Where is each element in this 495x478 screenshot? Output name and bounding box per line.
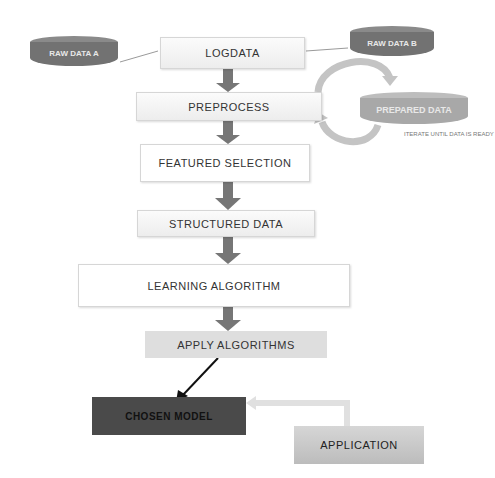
raw-data-a-label: RAW DATA A: [49, 49, 98, 58]
learning-algorithm-label: LEARNING ALGORITHM: [147, 280, 280, 292]
logdata-box: LOGDATA: [160, 37, 305, 69]
apply-algorithms-box: APPLY ALGORITHMS: [145, 331, 327, 358]
prepared-data-label: PREPARED DATA: [376, 105, 452, 115]
prepared-data-cylinder: PREPARED DATA: [360, 92, 468, 124]
logdata-label: LOGDATA: [205, 47, 259, 59]
structured-data-box: STRUCTURED DATA: [137, 210, 315, 237]
preprocess-box: PREPROCESS: [136, 92, 322, 121]
featured-selection-box: FEATURED SELECTION: [140, 144, 310, 182]
connectors: [0, 0, 495, 478]
raw-data-b-label: RAW DATA B: [367, 39, 417, 48]
featured-selection-label: FEATURED SELECTION: [159, 157, 292, 169]
chosen-model-label: CHOSEN MODEL: [125, 411, 213, 422]
chosen-model-box: CHOSEN MODEL: [92, 397, 246, 435]
iterate-note: ITERATE UNTIL DATA IS READY: [404, 130, 494, 138]
apply-algorithms-label: APPLY ALGORITHMS: [177, 339, 295, 351]
raw-data-b-cylinder: RAW DATA B: [350, 26, 434, 56]
preprocess-label: PREPROCESS: [188, 101, 269, 113]
raw-data-a-cylinder: RAW DATA A: [30, 36, 118, 66]
application-label: APPLICATION: [320, 439, 397, 451]
learning-algorithm-box: LEARNING ALGORITHM: [78, 264, 350, 307]
application-box: APPLICATION: [294, 426, 424, 464]
structured-data-label: STRUCTURED DATA: [169, 218, 283, 230]
